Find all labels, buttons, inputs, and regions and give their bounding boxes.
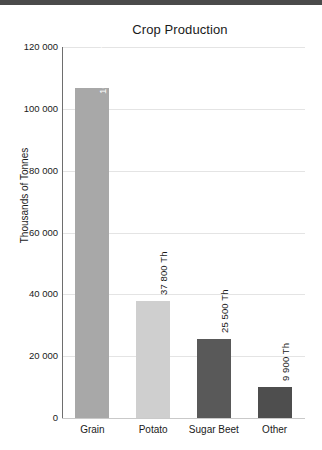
plot-area: 106 800 Th37 800 Th25 500 Th9 900 Th [62, 47, 305, 418]
bar-value-label: 25 500 Th [219, 290, 230, 334]
x-axis-line [62, 418, 305, 419]
y-axis-line [62, 47, 63, 419]
y-axis-tick-label: 120 000 [2, 41, 58, 52]
bar-value-label: 37 800 Th [158, 252, 169, 296]
chart-title: Crop Production [60, 22, 300, 37]
bar[interactable] [75, 88, 109, 418]
y-axis-tick-label: 40 000 [2, 288, 58, 299]
y-axis-tick-label: 60 000 [2, 227, 58, 238]
bar[interactable] [136, 301, 170, 418]
bar-value-label: 9 900 Th [280, 343, 291, 381]
y-axis-tick-label: 0 [2, 412, 58, 423]
x-axis-category-label: Other [225, 424, 322, 435]
y-axis-tick-labels: 020 00040 00060 00080 000100 000120 000 [0, 0, 58, 450]
y-axis-tick-label: 100 000 [2, 103, 58, 114]
bar-value-label: 106 800 Th [97, 45, 108, 94]
bar[interactable] [258, 387, 292, 418]
crop-production-chart: Crop Production Thousands of Tonnes 020 … [0, 0, 322, 450]
y-axis-tick-label: 80 000 [2, 165, 58, 176]
y-axis-tick-label: 20 000 [2, 350, 58, 361]
bar[interactable] [197, 339, 231, 418]
